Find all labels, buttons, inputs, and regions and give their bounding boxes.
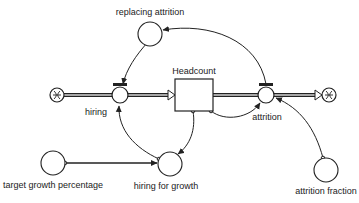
- link-replacing-attrition-to-hiring[interactable]: [123, 42, 148, 84]
- link-hiring-for-growth-to-hiring[interactable]: [119, 106, 159, 159]
- link-headcount-to-hiring-for-growth[interactable]: [178, 111, 194, 154]
- aux-hiring-for-growth-label: hiring for growth: [134, 181, 199, 191]
- aux-replacing-attrition[interactable]: [138, 22, 162, 46]
- sink-cloud-icon[interactable]: [322, 88, 336, 102]
- valve-hiring[interactable]: [112, 83, 128, 103]
- aux-attrition-fraction-label: attrition fraction: [295, 186, 357, 196]
- stock-flow-diagram: Headcount hiring attrition replacing att…: [0, 0, 359, 203]
- aux-replacing-attrition-label: replacing attrition: [116, 7, 185, 17]
- source-cloud-icon[interactable]: [50, 88, 64, 102]
- aux-target-growth-percentage[interactable]: [41, 151, 65, 175]
- stock-headcount[interactable]: [175, 79, 213, 111]
- aux-target-growth-percentage-label: target growth percentage: [3, 180, 103, 190]
- valve-attrition[interactable]: [258, 83, 274, 103]
- flow-attrition-label: attrition: [252, 112, 282, 122]
- link-attrition-fraction-to-attrition[interactable]: [276, 98, 323, 158]
- aux-hiring-for-growth[interactable]: [158, 152, 182, 176]
- aux-attrition-fraction[interactable]: [314, 158, 338, 182]
- flow-hiring-label: hiring: [85, 107, 107, 117]
- stock-headcount-label: Headcount: [172, 66, 216, 76]
